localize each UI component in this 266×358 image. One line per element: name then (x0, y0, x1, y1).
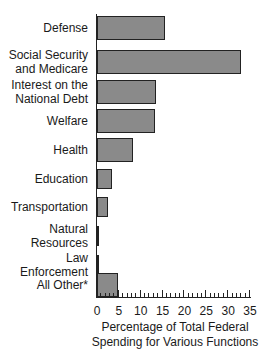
x-tick (118, 290, 119, 297)
x-tick (170, 293, 171, 297)
x-tick (240, 293, 241, 297)
x-tick (144, 293, 145, 297)
category-label: LawEnforcement (20, 251, 88, 279)
x-tick-label: 20 (178, 304, 191, 318)
bar-social-security-and-medicare (97, 50, 241, 74)
x-axis-title-line-1: Percentage of Total Federal (80, 320, 266, 335)
x-tick-label: 10 (134, 304, 147, 318)
x-tick (140, 290, 141, 297)
x-tick (122, 293, 123, 297)
x-tick (205, 290, 206, 297)
bar-welfare (97, 109, 155, 133)
x-tick (210, 293, 211, 297)
x-tick (249, 290, 250, 297)
x-tick (96, 290, 97, 297)
x-tick (166, 293, 167, 297)
bar-health (97, 138, 133, 162)
x-tick (162, 290, 163, 297)
x-axis-title: Percentage of Total Federal Spending for… (80, 320, 266, 350)
x-tick (148, 293, 149, 297)
bar-law-enforcement (97, 255, 99, 275)
x-tick (135, 293, 136, 297)
x-tick (127, 293, 128, 297)
x-tick (109, 293, 110, 297)
x-tick (201, 293, 202, 297)
x-tick (214, 293, 215, 297)
x-axis-title-line-2: Spending for Various Functions (80, 335, 266, 350)
x-axis (96, 297, 251, 298)
category-label: Welfare (47, 114, 88, 128)
x-tick (105, 293, 106, 297)
x-tick (192, 293, 193, 297)
x-tick-label: 0 (94, 304, 101, 318)
x-tick-label: 30 (221, 304, 234, 318)
x-tick (131, 293, 132, 297)
bar-natural-resources (97, 226, 99, 246)
category-label: Transportation (11, 200, 88, 214)
bar-interest-on-the-national-debt (97, 80, 156, 104)
x-tick (188, 293, 189, 297)
x-tick (179, 293, 180, 297)
x-tick-label: 15 (156, 304, 169, 318)
x-tick (113, 293, 114, 297)
category-label: Interest on theNational Debt (11, 78, 88, 106)
category-label: All Other* (37, 278, 88, 292)
x-tick (197, 293, 198, 297)
bar-education (97, 169, 112, 189)
bar-transportation (97, 197, 108, 217)
x-tick (227, 290, 228, 297)
x-tick (175, 293, 176, 297)
category-label: Social Securityand Medicare (9, 48, 88, 76)
category-label: Defense (43, 21, 88, 35)
category-label: Health (53, 143, 88, 157)
x-tick (100, 293, 101, 297)
x-tick (183, 290, 184, 297)
x-tick (236, 293, 237, 297)
x-tick (232, 293, 233, 297)
x-tick (223, 293, 224, 297)
x-tick (153, 293, 154, 297)
bar-defense (97, 16, 165, 40)
x-tick-label: 25 (200, 304, 213, 318)
x-tick-label: 35 (243, 304, 256, 318)
x-tick-label: 5 (116, 304, 123, 318)
x-tick (218, 293, 219, 297)
x-tick (157, 293, 158, 297)
x-tick (245, 293, 246, 297)
category-label: NaturalResources (31, 222, 88, 250)
category-label: Education (35, 172, 88, 186)
